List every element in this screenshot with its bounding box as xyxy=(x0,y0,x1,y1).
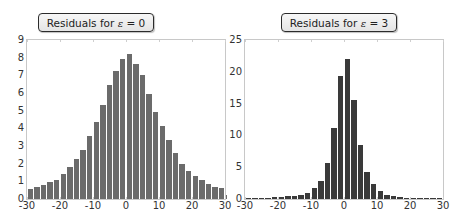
x-tick-mark xyxy=(159,40,160,42)
x-tick-mark xyxy=(27,40,28,42)
histogram-bar xyxy=(146,94,152,199)
right-chart-title: Residuals for ε = 3 xyxy=(281,13,397,32)
x-tick-mark xyxy=(60,197,61,199)
histogram-bar xyxy=(384,195,390,199)
histogram-bar xyxy=(292,196,298,199)
right-title-prefix: Residuals for xyxy=(290,17,361,29)
histogram-bar xyxy=(265,198,271,199)
histogram-bar xyxy=(34,187,40,199)
x-tick-mark xyxy=(126,197,127,199)
histogram-bar xyxy=(298,195,304,199)
y-tick-label: 20 xyxy=(224,67,242,77)
left-chart-panel: Residuals for ε = 0 0123456789-30-20-100… xyxy=(0,0,231,221)
histogram-bar xyxy=(279,197,285,199)
x-tick-label: -20 xyxy=(48,201,72,211)
x-tick-mark xyxy=(93,197,94,199)
histogram-bar xyxy=(28,189,34,199)
y-tick-label: 6 xyxy=(6,88,24,98)
histogram-bar xyxy=(404,198,410,199)
left-chart-title: Residuals for ε = 0 xyxy=(38,13,154,32)
histogram-bar xyxy=(252,198,258,199)
histogram-bar xyxy=(325,163,331,199)
x-tick-mark xyxy=(278,40,279,42)
x-tick-label: 0 xyxy=(332,201,356,211)
x-tick-mark xyxy=(311,40,312,42)
x-tick-mark xyxy=(93,40,94,42)
y-tick-label: 8 xyxy=(6,53,24,63)
histogram-bar xyxy=(272,197,278,199)
x-tick-mark xyxy=(126,40,127,42)
histogram-bar xyxy=(351,100,357,199)
histogram-bar xyxy=(41,185,47,199)
x-tick-mark xyxy=(27,197,28,199)
histogram-bar xyxy=(437,198,443,199)
histogram-bar xyxy=(345,59,351,199)
histogram-bar xyxy=(430,198,436,199)
x-tick-mark xyxy=(278,197,279,199)
y-tick-label: 7 xyxy=(6,70,24,80)
left-plot-area xyxy=(26,39,226,200)
histogram-bar xyxy=(107,85,113,199)
histogram-bar xyxy=(166,140,172,199)
x-tick-mark xyxy=(443,40,444,42)
x-tick-mark xyxy=(344,197,345,199)
histogram-bar xyxy=(80,150,86,199)
histogram-bar xyxy=(358,145,364,199)
x-tick-mark xyxy=(60,40,61,42)
right-chart-panel: Residuals for ε = 3 0510152025-30-20-100… xyxy=(231,0,462,221)
histogram-bar xyxy=(67,167,73,199)
y-tick-label: 10 xyxy=(224,130,242,140)
x-tick-label: 0 xyxy=(114,201,138,211)
x-tick-label: 20 xyxy=(180,201,204,211)
histogram-bar xyxy=(94,122,100,199)
x-tick-mark xyxy=(159,197,160,199)
x-tick-label: 20 xyxy=(398,201,422,211)
histogram-bar xyxy=(338,76,344,199)
histogram-bar xyxy=(318,181,324,199)
x-tick-label: -10 xyxy=(299,201,323,211)
histogram-bar xyxy=(212,187,218,199)
x-tick-mark xyxy=(410,40,411,42)
y-tick-label: 5 xyxy=(6,106,24,116)
x-tick-label: -20 xyxy=(266,201,290,211)
histogram-bar xyxy=(259,198,265,199)
histogram-bar xyxy=(411,198,417,199)
x-tick-mark xyxy=(192,40,193,42)
y-tick-label: 15 xyxy=(224,99,242,109)
histogram-bar xyxy=(113,71,119,199)
histogram-bar xyxy=(424,198,430,199)
histogram-bar xyxy=(173,153,179,199)
left-title-prefix: Residuals for xyxy=(47,17,118,29)
x-tick-mark xyxy=(311,197,312,199)
x-tick-mark xyxy=(245,197,246,199)
histogram-bar xyxy=(378,191,384,199)
histogram-bar xyxy=(246,198,252,199)
histogram-bar xyxy=(54,180,60,199)
histogram-bar xyxy=(127,54,133,199)
x-tick-label: 10 xyxy=(147,201,171,211)
histogram-bar xyxy=(312,188,318,199)
y-tick-label: 2 xyxy=(6,159,24,169)
x-tick-label: -30 xyxy=(233,201,257,211)
left-title-suffix: = 0 xyxy=(123,17,145,29)
histogram-bar xyxy=(285,196,291,199)
right-plot-area xyxy=(244,39,444,200)
x-tick-mark xyxy=(245,40,246,42)
histogram-bar xyxy=(193,176,199,199)
histogram-bar xyxy=(140,75,146,199)
x-tick-mark xyxy=(443,197,444,199)
histogram-bar xyxy=(186,171,192,199)
histogram-bar xyxy=(364,172,370,199)
y-tick-label: 25 xyxy=(224,35,242,45)
x-tick-label: -30 xyxy=(15,201,39,211)
y-tick-label: 9 xyxy=(6,35,24,45)
x-tick-label: 30 xyxy=(431,201,455,211)
histogram-bar xyxy=(47,182,53,199)
histogram-bar xyxy=(417,198,423,199)
y-tick-label: 1 xyxy=(6,176,24,186)
histogram-bar xyxy=(120,59,126,199)
x-tick-mark xyxy=(192,197,193,199)
y-tick-label: 5 xyxy=(224,162,242,172)
x-tick-label: -10 xyxy=(81,201,105,211)
histogram-bar xyxy=(199,180,205,199)
